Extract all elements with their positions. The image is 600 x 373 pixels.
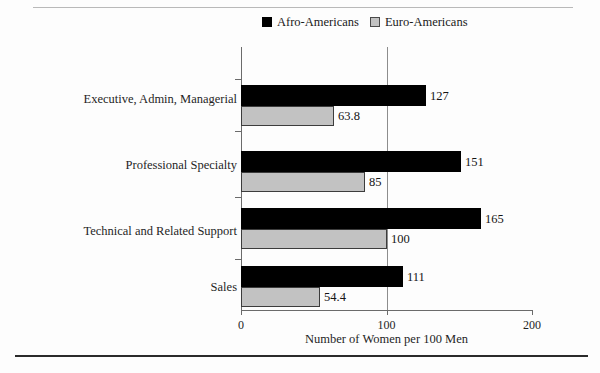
category-axis-labels: Executive, Admin, Managerial Professiona… xyxy=(0,47,237,310)
plot-area: 0 100 200 127 63.8 151 85 165 100 111 54… xyxy=(241,47,532,310)
page-rule-bottom xyxy=(15,355,588,357)
bar-afro-professional-specialty xyxy=(241,151,461,172)
chart-figure: Afro-Americans Euro-Americans Executive,… xyxy=(0,0,600,373)
bar-euro-professional-specialty xyxy=(241,172,365,192)
x-axis-tick-100 xyxy=(387,310,388,315)
bar-value-euro-sales: 54.4 xyxy=(324,290,346,305)
bar-afro-technical-and-related-support xyxy=(241,208,481,229)
x-axis-tick-label-200: 200 xyxy=(523,318,541,333)
bar-euro-executive-admin-managerial xyxy=(241,106,334,126)
legend-label-euro-americans: Euro-Americans xyxy=(385,16,468,29)
bar-value-afro-sales: 111 xyxy=(407,269,425,284)
bar-value-euro-professional-specialty: 85 xyxy=(369,175,382,190)
bar-value-afro-executive-admin-managerial: 127 xyxy=(430,88,449,103)
bar-afro-sales xyxy=(241,266,403,287)
bar-value-euro-technical-and-related-support: 100 xyxy=(391,232,410,247)
y-axis-tick-1 xyxy=(235,79,241,80)
category-label-sales: Sales xyxy=(211,280,237,295)
y-axis-tick-3 xyxy=(235,197,241,198)
x-axis-tick-label-0: 0 xyxy=(238,318,244,333)
category-label-technical-and-related-support: Technical and Related Support xyxy=(83,224,237,239)
x-axis-title: Number of Women per 100 Men xyxy=(241,332,532,347)
bar-afro-executive-admin-managerial xyxy=(241,85,426,106)
bar-value-afro-technical-and-related-support: 165 xyxy=(485,211,504,226)
chart-legend: Afro-Americans Euro-Americans xyxy=(262,16,468,29)
page-rule-top xyxy=(33,7,573,8)
bar-value-euro-executive-admin-managerial: 63.8 xyxy=(338,109,360,124)
legend-label-afro-americans: Afro-Americans xyxy=(277,16,359,29)
bar-value-afro-professional-specialty: 151 xyxy=(465,154,484,169)
bar-euro-sales xyxy=(241,287,320,307)
legend-entry-euro-americans: Euro-Americans xyxy=(370,16,468,29)
y-axis-tick-4 xyxy=(235,259,241,260)
legend-entry-afro-americans: Afro-Americans xyxy=(262,16,359,29)
x-axis-tick-0 xyxy=(241,310,242,315)
y-axis-tick-2 xyxy=(235,131,241,132)
x-axis-tick-label-100: 100 xyxy=(378,318,396,333)
black-square-swatch-icon xyxy=(262,17,272,27)
category-label-professional-specialty: Professional Specialty xyxy=(126,158,237,173)
category-label-executive-admin-managerial: Executive, Admin, Managerial xyxy=(84,92,237,107)
bar-euro-technical-and-related-support xyxy=(241,229,387,249)
x-axis-tick-200 xyxy=(532,310,533,315)
gray-square-swatch-icon xyxy=(370,17,380,27)
